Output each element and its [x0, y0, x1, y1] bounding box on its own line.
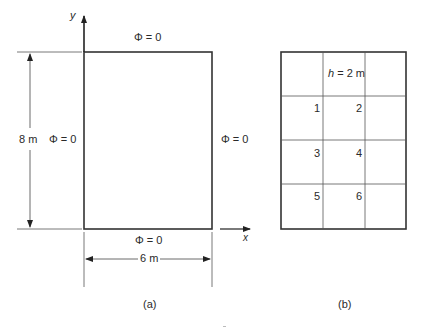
grid-spacing-label: h = 2 m: [328, 67, 365, 79]
diagram-canvas: [0, 0, 426, 327]
bc-right-label: Φ = 0: [221, 133, 248, 145]
width-dimension-label: 6 m: [140, 252, 158, 264]
node-label-6: 6: [356, 190, 362, 202]
bc-bottom-label: Φ = 0: [135, 234, 162, 246]
caption-a: (a): [143, 298, 156, 310]
bc-left-label: Φ = 0: [49, 133, 76, 145]
domain-rectangle: [84, 52, 212, 229]
node-label-5: 5: [314, 190, 320, 202]
grid-spacing-value: = 2 m: [334, 67, 365, 79]
node-label-1: 1: [314, 102, 320, 114]
height-dimension-label: 8 m: [19, 133, 37, 145]
figure-a: [17, 16, 250, 287]
bc-top-label: Φ = 0: [134, 31, 161, 43]
node-label-3: 3: [314, 147, 320, 159]
caption-b: (b): [338, 298, 351, 310]
node-label-2: 2: [356, 102, 362, 114]
y-axis-label: y: [70, 9, 76, 21]
node-label-4: 4: [356, 147, 362, 159]
x-axis-label: x: [243, 232, 248, 243]
